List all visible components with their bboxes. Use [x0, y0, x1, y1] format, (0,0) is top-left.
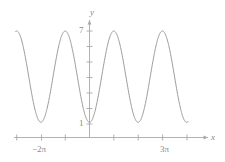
x-tick-label-3pi: 3π [160, 145, 169, 154]
y-axis-label: y [90, 8, 94, 17]
x-tick-label-neg-2pi: −2π [32, 145, 46, 154]
cosine-curve [16, 31, 189, 122]
x-axis-label: x [211, 133, 215, 142]
plot-area [0, 0, 225, 162]
cosine-curve-figure: y x 7 1 −2π 3π [0, 0, 225, 162]
x-axis-arrow-icon [204, 136, 209, 140]
y-tick-label-1: 1 [79, 119, 84, 128]
y-tick-label-7: 7 [79, 26, 84, 35]
y-axis-arrow-icon [88, 20, 92, 25]
